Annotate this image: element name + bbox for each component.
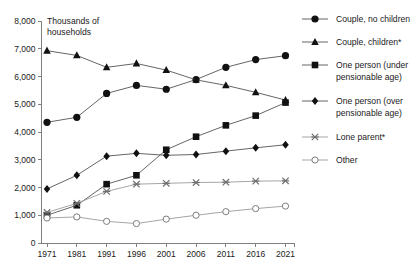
marker-filled-diamond xyxy=(252,144,259,152)
marker-filled-square xyxy=(282,99,289,106)
x-tick-label: 1991 xyxy=(97,249,116,259)
marker-filled-circle xyxy=(103,90,110,97)
marker-filled-circle xyxy=(43,119,50,126)
series-5 xyxy=(43,178,289,216)
marker-filled-square xyxy=(103,181,110,188)
x-tick-label: 2001 xyxy=(157,249,176,259)
series-6 xyxy=(44,203,289,227)
x-tick-label: 2011 xyxy=(217,249,236,259)
legend-item-2[interactable]: Couple, children* xyxy=(302,37,402,47)
x-tick-label: 1971 xyxy=(38,249,57,259)
marker-open-circle xyxy=(163,216,169,222)
y-tick-label: 2,000 xyxy=(14,183,36,193)
legend-label-line2: pensionable age) xyxy=(336,72,402,82)
marker-open-circle xyxy=(193,212,199,218)
y-tick-label: 1,000 xyxy=(14,210,36,220)
legend-label: Lone parent* xyxy=(336,132,386,142)
marker-open-circle xyxy=(312,157,318,163)
y-tick-label: 3,000 xyxy=(14,155,36,165)
marker-open-circle xyxy=(282,203,288,209)
marker-filled-square xyxy=(312,62,319,69)
y-tick-label: 7,000 xyxy=(14,44,36,54)
legend: Couple, no childrenCouple, children*One … xyxy=(302,14,410,165)
x-tick-label: 2016 xyxy=(246,249,265,259)
marker-open-circle xyxy=(253,205,259,211)
x-tick-label: 1996 xyxy=(127,249,146,259)
marker-filled-diamond xyxy=(282,141,289,149)
legend-item-1[interactable]: Couple, no children xyxy=(302,14,410,24)
legend-item-6[interactable]: Other xyxy=(302,155,358,165)
marker-open-circle xyxy=(223,209,229,215)
marker-filled-triangle xyxy=(311,38,319,45)
marker-cross xyxy=(163,180,170,186)
marker-cross xyxy=(192,179,199,185)
marker-filled-diamond xyxy=(193,150,200,158)
legend-label-line1: One person (under xyxy=(336,60,408,70)
marker-cross xyxy=(311,134,318,140)
marker-filled-circle xyxy=(163,86,170,93)
marker-cross xyxy=(252,178,259,184)
legend-item-3[interactable]: One person (underpensionable age) xyxy=(302,60,408,82)
household-composition-line-chart: 01,0002,0003,0004,0005,0006,0007,0008,00… xyxy=(0,0,416,274)
marker-cross xyxy=(103,188,110,194)
marker-cross xyxy=(133,181,140,187)
marker-filled-square xyxy=(223,122,230,129)
marker-open-circle xyxy=(74,214,80,220)
y-tick-label: 4,000 xyxy=(14,127,36,137)
legend-label: Other xyxy=(336,155,358,165)
series-line xyxy=(47,181,286,213)
y-tick-label: 5,000 xyxy=(14,99,36,109)
marker-filled-diamond xyxy=(44,185,51,193)
marker-open-circle xyxy=(104,218,110,224)
legend-item-5[interactable]: Lone parent* xyxy=(302,132,386,142)
marker-filled-diamond xyxy=(74,171,81,179)
series-2 xyxy=(43,47,289,103)
marker-filled-circle xyxy=(311,15,318,22)
legend-label-line2: pensionable age) xyxy=(336,108,402,118)
y-tick-label: 6,000 xyxy=(14,72,36,82)
marker-open-circle xyxy=(44,215,50,221)
marker-filled-circle xyxy=(222,64,229,71)
legend-item-4[interactable]: One person (overpensionable age) xyxy=(302,96,403,118)
marker-filled-diamond xyxy=(223,147,230,155)
y-axis-title-line2: households xyxy=(47,27,91,37)
series-1 xyxy=(43,52,289,126)
legend-label: Couple, children* xyxy=(336,37,402,47)
legend-label-line1: One person (over xyxy=(336,96,403,106)
y-axis-title-line1: Thousands of xyxy=(47,16,100,26)
marker-filled-triangle xyxy=(43,47,51,54)
marker-open-circle xyxy=(133,220,139,226)
marker-filled-triangle xyxy=(133,59,141,66)
x-tick-label: 1981 xyxy=(67,249,86,259)
marker-cross xyxy=(282,178,289,184)
marker-cross xyxy=(222,179,229,185)
marker-filled-circle xyxy=(252,56,259,63)
x-tick-label: 2021 xyxy=(276,249,295,259)
chart-plot-area: 01,0002,0003,0004,0005,0006,0007,0008,00… xyxy=(0,0,416,274)
marker-filled-circle xyxy=(133,82,140,89)
marker-filled-diamond xyxy=(103,152,110,160)
marker-filled-circle xyxy=(282,52,289,59)
marker-filled-circle xyxy=(73,114,80,121)
marker-filled-diamond xyxy=(133,149,140,157)
x-tick-label: 2006 xyxy=(187,249,206,259)
marker-filled-square xyxy=(252,112,259,119)
legend-label: Couple, no children xyxy=(336,14,410,24)
y-tick-label: 8,000 xyxy=(14,16,36,26)
y-tick-label: 0 xyxy=(31,238,36,248)
marker-filled-square xyxy=(133,172,140,179)
marker-filled-diamond xyxy=(312,97,319,105)
marker-filled-square xyxy=(193,133,200,140)
